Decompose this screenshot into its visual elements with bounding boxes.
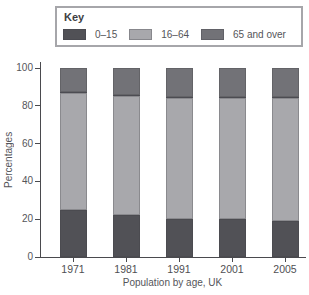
legend-item: 16–64 <box>129 29 189 40</box>
y-tick-mark <box>35 143 40 144</box>
legend: Key 0–1516–6465 and over <box>55 6 303 47</box>
bar-segment <box>272 221 299 257</box>
legend-item: 0–15 <box>63 29 117 40</box>
bar-segment <box>60 210 87 257</box>
y-tick-mark <box>35 219 40 220</box>
legend-swatch <box>201 29 224 40</box>
plot-area: 02040608010019711981199120012005 <box>40 62 306 258</box>
bar-1981 <box>113 68 140 257</box>
y-tick-mark <box>35 68 40 69</box>
bar-segment <box>219 98 246 219</box>
x-tick-mark <box>232 258 233 262</box>
y-tick-label: 60 <box>7 138 33 150</box>
legend-swatch <box>63 29 86 40</box>
x-axis-label: 2001 <box>202 263 262 275</box>
y-tick-label: 80 <box>7 100 33 112</box>
bar-2001 <box>219 68 246 257</box>
x-axis-caption: Population by age, UK <box>40 277 305 288</box>
bar-segment <box>60 93 87 210</box>
x-tick-mark <box>179 258 180 262</box>
legend-item-label: 16–64 <box>161 29 189 40</box>
bar-segment <box>219 68 246 98</box>
y-tick-label: 20 <box>7 213 33 225</box>
y-axis-label: Percentages <box>3 62 16 257</box>
y-tick-label: 100 <box>7 62 33 74</box>
bar-2005 <box>272 68 299 257</box>
legend-item: 65 and over <box>201 29 286 40</box>
chart-figure: Key 0–1516–6465 and over Percentages 020… <box>0 0 309 295</box>
y-tick-mark <box>35 105 40 106</box>
y-tick-label: 40 <box>7 175 33 187</box>
x-axis-label: 1981 <box>96 263 156 275</box>
bar-1971 <box>60 68 87 257</box>
legend-items: 0–1516–6465 and over <box>63 29 286 40</box>
legend-item-label: 0–15 <box>95 29 117 40</box>
x-axis-label: 2005 <box>255 263 309 275</box>
bar-segment <box>113 215 140 257</box>
y-tick-mark <box>35 181 40 182</box>
x-tick-mark <box>285 258 286 262</box>
y-tick-mark <box>35 257 40 258</box>
bar-segment <box>113 68 140 96</box>
legend-item-label: 65 and over <box>233 29 286 40</box>
bar-segment <box>113 96 140 215</box>
bar-segment <box>272 98 299 221</box>
x-axis-label: 1971 <box>43 263 103 275</box>
bar-segment <box>272 68 299 98</box>
bar-segment <box>60 68 87 93</box>
bar-segment <box>219 219 246 257</box>
bar-segment <box>166 98 193 219</box>
bar-1991 <box>166 68 193 257</box>
y-tick-label: 0 <box>7 251 33 263</box>
legend-title: Key <box>64 11 84 23</box>
x-axis-label: 1991 <box>149 263 209 275</box>
bar-segment <box>166 219 193 257</box>
bar-segment <box>166 68 193 98</box>
legend-swatch <box>129 29 152 40</box>
x-tick-mark <box>126 258 127 262</box>
x-tick-mark <box>73 258 74 262</box>
